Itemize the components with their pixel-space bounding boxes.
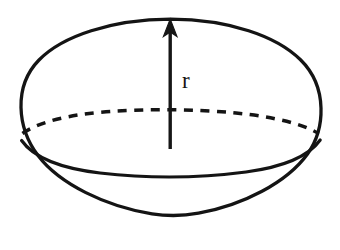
- radius-label: r: [182, 69, 190, 92]
- radius-arrow-group: [163, 19, 177, 149]
- sphere-figure-svg: [0, 0, 340, 250]
- sphere-diagram-canvas: r: [0, 0, 340, 250]
